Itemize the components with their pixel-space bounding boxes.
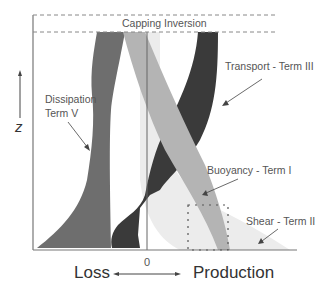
arrowhead-icon [222,100,229,106]
zero-label: 0 [144,256,150,268]
z-arrow-head-icon [18,70,22,76]
arrowhead-icon [84,144,90,151]
arrow-left-icon [113,272,119,276]
transport-pointer [226,79,262,103]
loss-label: Loss [74,263,110,283]
z-axis-label: z [15,121,23,133]
dissipation-term-label: Term V [45,107,78,119]
shear-label: Shear - Term II [246,215,315,227]
dissipation-label: Dissipation [45,93,96,105]
arrow-right-icon [175,272,181,276]
tke-budget-diagram [0,0,322,293]
dissipation-term-shape [37,32,125,248]
transport-label: Transport - Term III [225,60,314,72]
production-label: Production [193,263,274,283]
dissipation-pointer [68,122,88,148]
capping-inversion-label: Capping Inversion [122,17,207,29]
buoyancy-label: Buoyancy - Term I [207,164,291,176]
